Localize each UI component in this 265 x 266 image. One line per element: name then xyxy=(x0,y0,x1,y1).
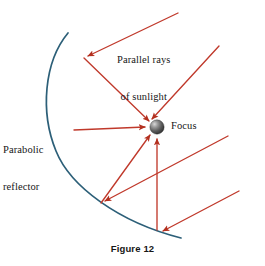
label-sunlight-line1: Parallel rays xyxy=(117,54,171,66)
ray-incoming-bottom-2 xyxy=(163,191,239,231)
label-focus: Focus xyxy=(171,120,197,132)
label-sunlight-line2: of sunlight xyxy=(117,91,171,103)
figure-parabolic-reflector: Parallel rays of sunlight Parabolic refl… xyxy=(0,0,265,266)
figure-caption: Figure 12 xyxy=(0,243,265,254)
ray-incoming-bottom-1 xyxy=(105,136,228,201)
label-parabolic-reflector: Parabolic reflector xyxy=(3,119,44,218)
label-parallel-rays-of-sunlight: Parallel rays of sunlight xyxy=(117,29,171,128)
label-reflector-line2: reflector xyxy=(3,181,44,193)
label-reflector-line1: Parabolic xyxy=(3,144,44,156)
ray-reflected-lower xyxy=(101,135,150,203)
